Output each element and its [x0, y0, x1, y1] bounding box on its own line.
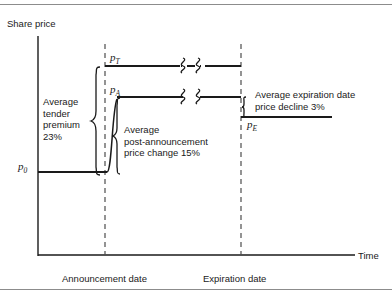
- price-label-pT-subscript: T: [116, 57, 120, 66]
- annotation-tender-premium: Average tender premium 23%: [43, 96, 80, 142]
- break-mark-pT-right: [196, 58, 200, 73]
- price-label-pE: pE: [247, 118, 257, 133]
- price-jump-to-pA: [107, 99, 117, 172]
- annotation-post-announcement-change: Average post-announcement price change 1…: [124, 124, 208, 159]
- figure-container: Share price Time Announcement date Expir…: [0, 0, 392, 301]
- x-tick-label-expiration-date: Expiration date: [203, 273, 266, 285]
- brace-post-announcement: [113, 98, 120, 174]
- x-axis-label: Time: [358, 250, 379, 262]
- price-label-pA: pA: [110, 83, 120, 98]
- x-tick-label-announcement-date: Announcement date: [62, 273, 147, 285]
- break-mark-pT-left: [181, 58, 185, 73]
- price-label-pA-subscript: A: [116, 89, 121, 98]
- price-label-p0-subscript: 0: [24, 166, 28, 175]
- y-axis-label: Share price: [7, 18, 56, 30]
- price-label-pE-subscript: E: [253, 124, 258, 133]
- price-label-pT: pT: [110, 51, 120, 66]
- break-mark-pA-left: [181, 89, 185, 104]
- annotation-expiration-decline: Average expiration date price decline 3%: [255, 89, 355, 112]
- break-mark-pA-right: [196, 89, 200, 104]
- brace-expiration-decline: [242, 97, 246, 117]
- brace-tender-premium: [91, 67, 100, 175]
- price-label-p0: p0: [18, 160, 27, 175]
